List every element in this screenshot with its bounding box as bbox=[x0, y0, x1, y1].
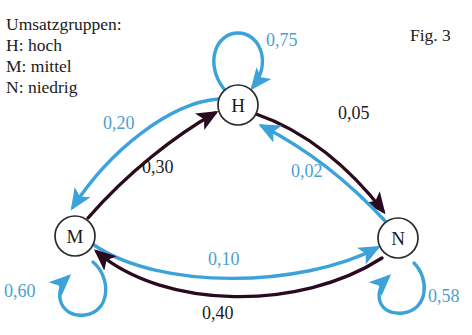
edge-label-H-N: 0,05 bbox=[338, 103, 370, 124]
node-H-label: H bbox=[231, 95, 245, 116]
node-H[interactable]: H bbox=[218, 85, 258, 125]
edge-label-H-M: 0,20 bbox=[103, 113, 135, 134]
legend: Umsatzgruppen: H: hoch M: mittel N: nied… bbox=[6, 14, 122, 98]
figure-caption: Fig. 3 bbox=[410, 25, 451, 46]
edge-N-N-path bbox=[379, 263, 424, 313]
legend-item-M: M: mittel bbox=[6, 56, 122, 77]
edge-label-N-H: 0,02 bbox=[291, 161, 323, 182]
node-M-label: M bbox=[67, 226, 84, 247]
edge-M-M-path bbox=[60, 262, 106, 315]
edge-M-M bbox=[60, 262, 106, 315]
node-N-label: N bbox=[391, 228, 405, 249]
edge-N-H-path bbox=[262, 126, 386, 222]
edge-H-M-path bbox=[73, 99, 218, 207]
edge-H-H bbox=[214, 33, 263, 89]
legend-item-H: H: hoch bbox=[6, 35, 122, 56]
edge-N-N bbox=[379, 263, 424, 313]
node-M[interactable]: M bbox=[55, 216, 95, 256]
edge-N-H bbox=[262, 126, 386, 222]
legend-item-N: N: niedrig bbox=[6, 77, 122, 98]
figure-canvas: H M N Umsatzgruppen: H: hoch M: mittel N… bbox=[0, 0, 472, 335]
edge-label-N-N: 0,58 bbox=[428, 286, 460, 307]
edge-label-M-N: 0,10 bbox=[208, 249, 240, 270]
edge-N-M bbox=[97, 252, 382, 297]
legend-title: Umsatzgruppen: bbox=[6, 14, 122, 35]
edge-label-M-M: 0,60 bbox=[4, 281, 36, 302]
edge-H-M bbox=[73, 99, 218, 207]
edge-label-N-M: 0,40 bbox=[202, 303, 234, 324]
edge-N-M-path bbox=[97, 252, 382, 297]
edge-H-H-path bbox=[214, 33, 263, 89]
edge-label-M-H: 0,30 bbox=[142, 157, 174, 178]
node-N[interactable]: N bbox=[378, 218, 418, 258]
edge-label-H-H: 0,75 bbox=[266, 30, 298, 51]
